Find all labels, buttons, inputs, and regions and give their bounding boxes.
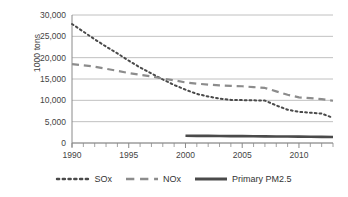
legend-label: Primary PM2.5 [232, 174, 292, 184]
legend-item[interactable]: NOx [125, 174, 181, 184]
legend-swatch-dotted-icon [56, 175, 90, 183]
legend-item[interactable]: SOx [56, 174, 112, 184]
series-line-primary-pm2-5 [185, 136, 333, 137]
legend-label: NOx [163, 174, 181, 184]
gridlines [72, 15, 333, 143]
x-axis-tick-label: 2010 [279, 150, 319, 160]
series-line-sox [72, 24, 333, 118]
legend-swatch-dashed-icon [125, 175, 159, 183]
x-axis-tick-label: 2005 [222, 150, 262, 160]
x-axis-tick-label: 1995 [109, 150, 149, 160]
chart-legend: SOxNOxPrimary PM2.5 [0, 168, 348, 190]
y-axis-tick-label: 20,000 [22, 53, 66, 63]
legend-label: SOx [94, 174, 112, 184]
legend-swatch-solid-icon [194, 175, 228, 183]
x-axis-ticks [72, 143, 333, 148]
x-axis-tick-label: 1990 [52, 150, 92, 160]
y-axis-tick-label: 15,000 [22, 74, 66, 84]
y-axis-tick-label: 25,000 [22, 31, 66, 41]
y-axis-tick-label: 10,000 [22, 95, 66, 105]
emissions-trend-chart: 1000 tons 30,00025,00020,00015,00010,000… [0, 0, 348, 197]
y-axis-tick-label: 30,000 [22, 10, 66, 20]
series-lines [72, 24, 333, 137]
x-axis-tick-label: 2000 [165, 150, 205, 160]
y-axis-tick-label: 0 [22, 138, 66, 148]
legend-item[interactable]: Primary PM2.5 [194, 174, 292, 184]
axis-lines [72, 15, 333, 147]
y-axis-tick-label: 5,000 [22, 117, 66, 127]
